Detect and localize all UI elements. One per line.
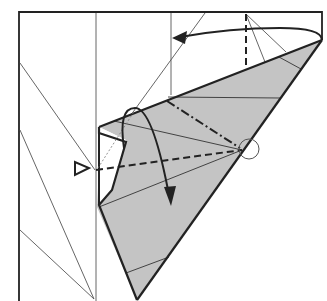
origami-diagram (0, 0, 327, 301)
gray-flap (97, 40, 322, 300)
push-arrow-icon (75, 162, 89, 175)
